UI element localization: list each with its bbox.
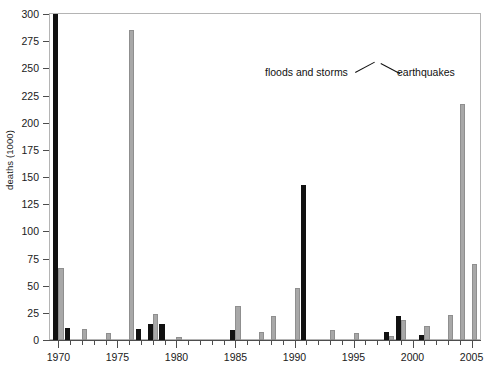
x-tick-mark-minor bbox=[306, 341, 307, 345]
bar-earthquakes-2005 bbox=[472, 264, 477, 340]
x-tick-mark-minor bbox=[153, 341, 154, 345]
y-tick-mark bbox=[43, 286, 49, 287]
y-tick-label: 150 bbox=[5, 171, 39, 183]
x-tick-mark-major bbox=[235, 341, 236, 348]
x-tick-mark-minor bbox=[401, 341, 402, 345]
y-tick-label: 50 bbox=[5, 280, 39, 292]
bar-earthquakes-1998 bbox=[389, 336, 394, 340]
x-tick-mark-minor bbox=[165, 341, 166, 345]
bar-earthquakes-1988 bbox=[271, 316, 276, 340]
x-tick-mark-minor bbox=[141, 341, 142, 345]
x-tick-label: 2005 bbox=[460, 351, 483, 363]
y-tick-label: 125 bbox=[5, 198, 39, 210]
x-tick-mark-major bbox=[472, 341, 473, 348]
x-tick-label: 1985 bbox=[224, 351, 247, 363]
x-tick-mark-major bbox=[176, 341, 177, 348]
x-tick-mark-minor bbox=[188, 341, 189, 345]
y-tick-label: 0 bbox=[5, 334, 39, 346]
bar-earthquakes-1972 bbox=[82, 329, 87, 340]
x-tick-mark-minor bbox=[212, 341, 213, 345]
x-tick-label: 1970 bbox=[47, 351, 70, 363]
bar-floods-and-storms-1971 bbox=[65, 328, 70, 340]
y-tick-mark bbox=[43, 177, 49, 178]
bar-earthquakes-1999 bbox=[401, 320, 406, 340]
x-tick-mark-minor bbox=[94, 341, 95, 345]
bar-earthquakes-2001 bbox=[424, 326, 429, 340]
y-tick-mark bbox=[43, 313, 49, 314]
x-tick-mark-minor bbox=[448, 341, 449, 345]
bar-earthquakes-1995 bbox=[354, 333, 359, 340]
y-tick-mark bbox=[43, 150, 49, 151]
x-tick-mark-major bbox=[58, 341, 59, 348]
x-tick-label: 1995 bbox=[342, 351, 365, 363]
x-tick-mark-major bbox=[413, 341, 414, 348]
bar-earthquakes-1980 bbox=[176, 337, 181, 340]
x-tick-mark-minor bbox=[389, 341, 390, 345]
bar-floods-and-storms-1979 bbox=[159, 324, 164, 340]
y-tick-mark bbox=[43, 231, 49, 232]
x-tick-label: 1980 bbox=[165, 351, 188, 363]
bar-earthquakes-2004 bbox=[460, 104, 465, 340]
x-tick-mark-minor bbox=[129, 341, 130, 345]
x-tick-mark-minor bbox=[318, 341, 319, 345]
x-tick-mark-minor bbox=[377, 341, 378, 345]
y-tick-mark bbox=[43, 14, 49, 15]
x-tick-label: 2000 bbox=[401, 351, 424, 363]
y-tick-mark bbox=[43, 96, 49, 97]
y-tick-mark bbox=[43, 41, 49, 42]
x-tick-mark-minor bbox=[82, 341, 83, 345]
y-tick-label: 225 bbox=[5, 90, 39, 102]
y-tick-label: 250 bbox=[5, 62, 39, 74]
bar-earthquakes-1978 bbox=[153, 314, 158, 340]
y-tick-label: 200 bbox=[5, 117, 39, 129]
x-tick-mark-minor bbox=[330, 341, 331, 345]
bar-earthquakes-1987 bbox=[259, 332, 264, 340]
x-axis-line bbox=[49, 340, 481, 341]
y-tick-label: 25 bbox=[5, 307, 39, 319]
y-tick-label: 175 bbox=[5, 144, 39, 156]
x-tick-label: 1975 bbox=[106, 351, 129, 363]
x-tick-mark-minor bbox=[70, 341, 71, 345]
x-tick-mark-minor bbox=[436, 341, 437, 345]
y-tick-mark bbox=[43, 204, 49, 205]
bar-earthquakes-1974 bbox=[106, 333, 111, 340]
annotation-floods-and-storms: floods and storms bbox=[265, 66, 348, 78]
x-tick-mark-major bbox=[354, 341, 355, 348]
bar-earthquakes-1976 bbox=[129, 30, 134, 340]
x-tick-mark-minor bbox=[224, 341, 225, 345]
bar-floods-and-storms-1991 bbox=[301, 185, 306, 340]
x-tick-mark-minor bbox=[247, 341, 248, 345]
x-tick-mark-major bbox=[117, 341, 118, 348]
y-tick-mark bbox=[43, 259, 49, 260]
y-tick-label: 275 bbox=[5, 35, 39, 47]
y-tick-label: 100 bbox=[5, 225, 39, 237]
x-tick-mark-minor bbox=[342, 341, 343, 345]
plot-area bbox=[49, 13, 481, 340]
x-tick-mark-minor bbox=[200, 341, 201, 345]
y-tick-label: 300 bbox=[5, 8, 39, 20]
annotation-earthquakes: earthquakes bbox=[397, 66, 455, 78]
x-tick-mark-minor bbox=[460, 341, 461, 345]
x-tick-mark-minor bbox=[424, 341, 425, 345]
x-tick-mark-minor bbox=[259, 341, 260, 345]
x-tick-mark-minor bbox=[106, 341, 107, 345]
y-tick-label: 75 bbox=[5, 253, 39, 265]
x-tick-label: 1990 bbox=[283, 351, 306, 363]
bar-earthquakes-2003 bbox=[448, 315, 453, 340]
bar-floods-and-storms-1977 bbox=[136, 329, 141, 340]
bar-earthquakes-1993 bbox=[330, 330, 335, 340]
y-tick-mark bbox=[43, 123, 49, 124]
bar-earthquakes-1970 bbox=[58, 268, 63, 340]
x-tick-mark-minor bbox=[365, 341, 366, 345]
x-tick-mark-minor bbox=[283, 341, 284, 345]
x-tick-mark-minor bbox=[271, 341, 272, 345]
bar-earthquakes-1990 bbox=[295, 288, 300, 340]
y-tick-mark bbox=[43, 68, 49, 69]
x-tick-mark-major bbox=[295, 341, 296, 348]
bar-earthquakes-1985 bbox=[235, 306, 240, 340]
chart-root: deaths (1000) 02550751001251501752002252… bbox=[0, 0, 484, 368]
